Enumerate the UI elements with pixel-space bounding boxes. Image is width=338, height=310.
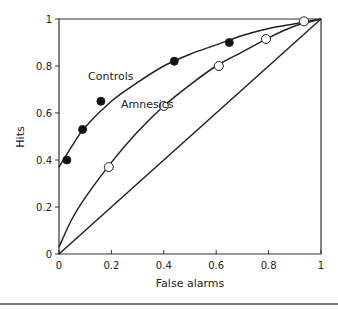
roc-chart: 00.20.40.60.8100.20.40.60.81 Controls Am… <box>0 0 338 310</box>
y-tick-label: 0.8 <box>36 61 52 72</box>
amnesics-label: Amnesics <box>121 98 174 111</box>
y-tick-label: 0 <box>46 249 52 260</box>
x-axis-title: False alarms <box>156 277 225 290</box>
controls-point <box>170 57 178 65</box>
x-tick-label: 0.6 <box>208 260 224 271</box>
x-tick-label: 0 <box>56 260 62 271</box>
y-tick-label: 0.2 <box>36 202 52 213</box>
amnesics-point <box>261 34 270 43</box>
x-tick-label: 0.2 <box>103 260 119 271</box>
controls-point <box>79 125 87 133</box>
x-tick-label: 1 <box>318 260 324 271</box>
controls-label: Controls <box>88 70 134 83</box>
x-tick-label: 0.4 <box>156 260 172 271</box>
controls-curve <box>59 19 321 167</box>
amnesics-point <box>104 163 113 172</box>
x-tick-label: 0.8 <box>261 260 277 271</box>
data-points <box>63 17 309 172</box>
axes: 00.20.40.60.8100.20.40.60.81 <box>36 14 324 271</box>
y-axis-title: Hits <box>14 126 27 148</box>
y-tick-label: 0.4 <box>36 155 52 166</box>
y-tick-label: 0.6 <box>36 108 52 119</box>
y-tick-label: 1 <box>46 14 52 25</box>
controls-point <box>97 97 105 105</box>
bottom-separator <box>0 303 338 305</box>
amnesics-point <box>214 62 223 71</box>
controls-point <box>63 156 71 164</box>
controls-point <box>225 39 233 47</box>
amnesics-curve <box>59 19 321 247</box>
fit-curves <box>59 19 321 254</box>
amnesics-point <box>299 17 308 26</box>
